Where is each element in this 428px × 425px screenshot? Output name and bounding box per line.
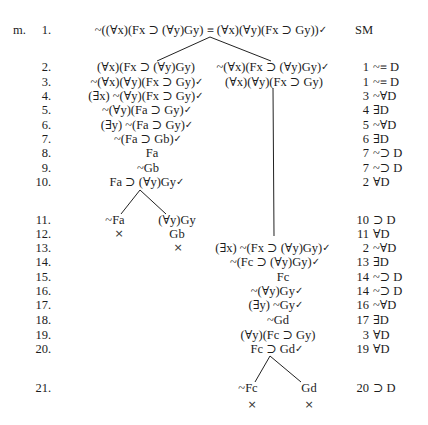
justification-ref: 1 [350,59,369,75]
justification-ref: 17 [350,312,369,328]
tree-row-2: 2. (∀x)(Fx ⊃ (∀y)Gy) ~(∀x)(Fx ⊃ (∀y)Gy)✓… [0,59,428,75]
justification-rule: ~≡ D [373,59,399,75]
line-number: 10. [35,174,51,190]
line-number: 1. [42,22,51,38]
branch-line-20-left [255,356,270,382]
branch-line-10-right [140,190,166,214]
justification-rule: ∃D [373,312,389,328]
check-mark-icon: ✓ [195,76,203,87]
justification-ref: 19 [350,341,369,357]
tree-row-21: 21. ~Fc Gd 20 ⊃ D [0,380,428,396]
branch-line-1-right [210,37,271,61]
check-mark-icon: ✓ [295,285,303,296]
check-mark-icon: ✓ [295,299,303,310]
formula-node: ~Gd [267,312,289,328]
justification-ref: 20 [350,380,369,396]
tree-row-14: 14. ~(Fc ⊃ (∀y)Gy)✓ 13 ∃D [0,254,428,270]
justification-ref: 2 [350,174,369,190]
check-mark-icon: ✓ [319,24,327,35]
branch-line-1-left [157,37,210,61]
tree-row-10: 10. Fa ⊃ (∀y)Gy✓ 2 ∀D [0,174,428,190]
line-number: 14. [35,254,51,270]
check-mark-icon: ✓ [185,119,193,130]
justification-ref: 4 [350,102,369,118]
tree-row-1: m. 1. ~((∀x)(Fx ⊃ (∀y)Gy) ≡ (∀x)(∀y)(Fx … [0,22,428,38]
formula-node-right: Gd [301,380,316,396]
problem-label: m. [13,22,26,38]
justification-rule: ⊃ D [373,380,396,396]
formula-node-left: (∀x)(Fx ⊃ (∀y)Gy) [97,59,195,75]
tree-row-18: 18. ~Gd 17 ∃D [0,312,428,328]
line-number: 20. [35,341,51,357]
justification-rule: ∃D [373,254,389,270]
justification-rule: ∀D [373,174,390,190]
formula-node-left: ~Fc [238,380,257,396]
line-number: 18. [35,312,51,328]
tree-row-5: 5. ~(∀y)(Fa ⊃ Gy)✓ 4 ∃D [0,102,428,118]
closed-branch-icon: × [304,397,313,413]
truth-tree-proof: m. 1. ~((∀x)(Fx ⊃ (∀y)Gy) ≡ (∀x)(∀y)(Fx … [0,0,428,425]
tree-row-17: 17. (∃y) ~Gy✓ 16 ~∀D [0,297,428,313]
justification-ref: 7 [350,145,369,161]
line-number: 21. [35,380,51,396]
line-number: 8. [42,145,51,161]
justification-rule: ∀D [373,341,390,357]
line-number: 2. [42,59,51,75]
check-mark-icon: ✓ [295,343,303,354]
justification-ref: 13 [350,254,369,270]
formula-node: Fc ⊃ Gd✓ [251,341,304,358]
check-mark-icon: ✓ [322,242,330,253]
tree-row-20: 20. Fc ⊃ Gd✓ 19 ∀D [0,341,428,357]
check-mark-icon: ✓ [321,61,329,72]
branch-line-10-left [121,190,140,214]
closed-branch-icon: × [247,397,256,413]
check-mark-icon: ✓ [174,133,182,144]
justification-rule: ~⊃ D [373,145,402,161]
check-mark-icon: ✓ [312,256,320,267]
check-mark-icon: ✓ [195,90,203,101]
line-number: 5. [42,102,51,118]
formula-node: Fa [146,145,159,161]
tree-row-8: 8. Fa 7 ~⊃ D [0,145,428,161]
justification-rule: ~∀D [373,297,396,313]
line-number: 17. [35,297,51,313]
tree-row-closures: × × [0,397,428,413]
check-mark-icon: ✓ [184,104,192,115]
formula-node: ~((∀x)(Fx ⊃ (∀y)Gy) ≡ (∀x)(∀y)(Fx ⊃ Gy))… [95,22,327,39]
branch-line-20-right [270,356,301,382]
formula-node: Fa ⊃ (∀y)Gy✓ [109,174,184,191]
check-mark-icon: ✓ [176,176,184,187]
justification-rule: ∃D [373,102,389,118]
justification-ref: 16 [350,297,369,313]
justification: SM [355,22,373,38]
